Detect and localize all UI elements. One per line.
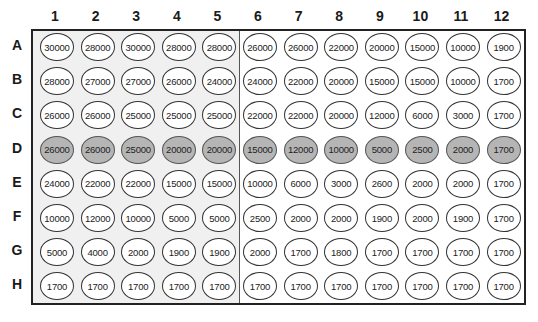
well-D2: 26000 xyxy=(81,136,115,164)
well-C2: 26000 xyxy=(81,101,115,129)
well-D11: 2000 xyxy=(446,136,480,164)
well-E2: 22000 xyxy=(81,170,115,198)
column-header: 7 xyxy=(279,8,319,24)
well-A1: 30000 xyxy=(40,33,74,61)
well-A12: 1900 xyxy=(487,33,521,61)
well-E5: 15000 xyxy=(202,170,236,198)
well-B1: 28000 xyxy=(40,67,74,95)
well-C11: 3000 xyxy=(446,101,480,129)
well-E7: 6000 xyxy=(284,170,318,198)
column-header: 4 xyxy=(157,8,197,24)
row-header: E xyxy=(8,174,26,190)
well-B6: 24000 xyxy=(243,67,277,95)
well-B11: 10000 xyxy=(446,67,480,95)
well-E11: 2000 xyxy=(446,170,480,198)
well-F7: 2000 xyxy=(284,204,318,232)
well-B4: 26000 xyxy=(162,67,196,95)
well-B12: 1700 xyxy=(487,67,521,95)
well-G2: 4000 xyxy=(81,238,115,266)
column-header: 12 xyxy=(482,8,522,24)
well-G4: 1900 xyxy=(162,238,196,266)
section-divider xyxy=(239,31,240,303)
well-F3: 10000 xyxy=(121,204,155,232)
column-header: 2 xyxy=(76,8,116,24)
row-header: F xyxy=(8,208,26,224)
well-G7: 1700 xyxy=(284,238,318,266)
well-G9: 1700 xyxy=(365,238,399,266)
well-plate: 3000028000300002800028000260002600022000… xyxy=(31,29,526,305)
row-header: A xyxy=(8,37,26,53)
well-B8: 20000 xyxy=(324,67,358,95)
well-B9: 15000 xyxy=(365,67,399,95)
well-D10: 2500 xyxy=(405,136,439,164)
well-F6: 2500 xyxy=(243,204,277,232)
row-header: G xyxy=(8,242,26,258)
column-header: 11 xyxy=(441,8,481,24)
well-A7: 26000 xyxy=(284,33,318,61)
well-A10: 15000 xyxy=(405,33,439,61)
well-F11: 1900 xyxy=(446,204,480,232)
well-G10: 1700 xyxy=(405,238,439,266)
well-D12: 1700 xyxy=(487,136,521,164)
row-header: H xyxy=(8,276,26,292)
well-G8: 1800 xyxy=(324,238,358,266)
well-F9: 1900 xyxy=(365,204,399,232)
well-E12: 1700 xyxy=(487,170,521,198)
well-H7: 1700 xyxy=(284,272,318,300)
column-header: 8 xyxy=(319,8,359,24)
well-E1: 24000 xyxy=(40,170,74,198)
well-E3: 22000 xyxy=(121,170,155,198)
well-B7: 22000 xyxy=(284,67,318,95)
column-header: 10 xyxy=(400,8,440,24)
well-A2: 28000 xyxy=(81,33,115,61)
well-H10: 1700 xyxy=(405,272,439,300)
well-E8: 3000 xyxy=(324,170,358,198)
well-C7: 22000 xyxy=(284,101,318,129)
well-H6: 1700 xyxy=(243,272,277,300)
well-H8: 1700 xyxy=(324,272,358,300)
well-D1: 26000 xyxy=(40,136,74,164)
well-A9: 20000 xyxy=(365,33,399,61)
well-A11: 10000 xyxy=(446,33,480,61)
well-H9: 1700 xyxy=(365,272,399,300)
well-D7: 12000 xyxy=(284,136,318,164)
column-header: 1 xyxy=(35,8,75,24)
well-D8: 10000 xyxy=(324,136,358,164)
well-E4: 15000 xyxy=(162,170,196,198)
well-H2: 1700 xyxy=(81,272,115,300)
well-A8: 22000 xyxy=(324,33,358,61)
well-F1: 10000 xyxy=(40,204,74,232)
well-B10: 15000 xyxy=(405,67,439,95)
well-C12: 1700 xyxy=(487,101,521,129)
well-A4: 28000 xyxy=(162,33,196,61)
well-E10: 2000 xyxy=(405,170,439,198)
well-G1: 5000 xyxy=(40,238,74,266)
well-C10: 6000 xyxy=(405,101,439,129)
well-C9: 12000 xyxy=(365,101,399,129)
column-header: 3 xyxy=(116,8,156,24)
column-header: 9 xyxy=(360,8,400,24)
well-E6: 10000 xyxy=(243,170,277,198)
well-C6: 22000 xyxy=(243,101,277,129)
well-G12: 1700 xyxy=(487,238,521,266)
well-H12: 1700 xyxy=(487,272,521,300)
well-H11: 1700 xyxy=(446,272,480,300)
well-F10: 2000 xyxy=(405,204,439,232)
column-header: 6 xyxy=(238,8,278,24)
well-G11: 1700 xyxy=(446,238,480,266)
well-F8: 2000 xyxy=(324,204,358,232)
well-G6: 2000 xyxy=(243,238,277,266)
row-header: D xyxy=(8,140,26,156)
well-A6: 26000 xyxy=(243,33,277,61)
row-header: C xyxy=(8,105,26,121)
well-A3: 30000 xyxy=(121,33,155,61)
well-C8: 20000 xyxy=(324,101,358,129)
well-F12: 1700 xyxy=(487,204,521,232)
well-F2: 12000 xyxy=(81,204,115,232)
well-D6: 15000 xyxy=(243,136,277,164)
well-F4: 5000 xyxy=(162,204,196,232)
well-B2: 27000 xyxy=(81,67,115,95)
row-header: B xyxy=(8,71,26,87)
well-D5: 20000 xyxy=(202,136,236,164)
well-D3: 25000 xyxy=(121,136,155,164)
